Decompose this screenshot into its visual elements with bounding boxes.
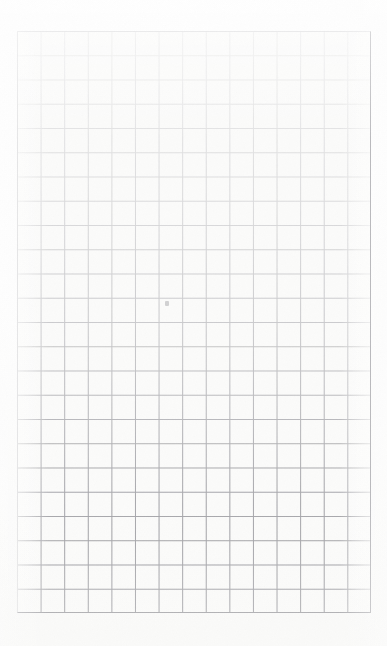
graph-paper-grid (17, 31, 371, 613)
scan-smudge-artifact (165, 301, 169, 306)
scanned-page (0, 0, 387, 646)
grid-lines-dark (17, 31, 371, 613)
